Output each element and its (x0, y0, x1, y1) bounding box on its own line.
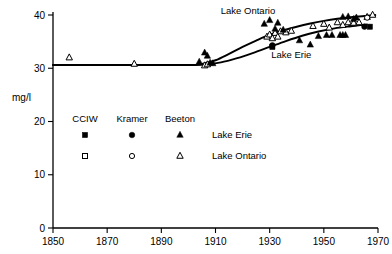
legend-marker (129, 153, 134, 158)
data-point-marker (315, 33, 321, 39)
data-point-marker (261, 20, 267, 26)
trend-line (53, 25, 364, 66)
legend-marker (177, 131, 183, 137)
legend-row-label: Lake Ontario (212, 150, 266, 161)
x-tick-label: 1910 (204, 236, 227, 247)
x-tick-label: 1970 (367, 236, 390, 247)
data-point-marker (275, 19, 281, 25)
y-tick-label: 40 (34, 10, 46, 21)
chart-container: 0102030401850187018901910193019501970 mg… (0, 0, 392, 254)
x-tick-label: 1890 (150, 236, 173, 247)
axes (53, 12, 378, 228)
y-tick-label: 30 (34, 63, 46, 74)
x-tick-label: 1850 (42, 236, 65, 247)
data-point-marker (196, 58, 202, 64)
legend-column-header: Kramer (116, 113, 147, 124)
data-point-marker (266, 17, 272, 23)
data-point-marker (131, 60, 137, 66)
data-point-marker (326, 24, 332, 30)
x-tick-label: 1950 (313, 236, 336, 247)
legend-column-header: Beeton (165, 113, 195, 124)
trend-line (53, 15, 375, 65)
legend-marker (129, 132, 135, 138)
chart-legend: CCIWKramerBeetonLake ErieLake Ontario (72, 113, 266, 161)
x-tick-label: 1930 (259, 236, 282, 247)
axis-ticks (48, 15, 378, 233)
chart-plot: 0102030401850187018901910193019501970 mg… (0, 0, 392, 254)
legend-marker (177, 152, 183, 158)
x-tick-label: 1870 (96, 236, 119, 247)
trend-lines (53, 15, 375, 65)
data-point-marker (272, 25, 278, 31)
data-point-marker (329, 32, 335, 38)
data-point-marker (270, 43, 276, 49)
legend-column-header: CCIW (72, 113, 97, 124)
data-point-marker (66, 54, 72, 60)
data-point-marker (362, 24, 368, 30)
y-tick-label: 10 (34, 169, 46, 180)
data-point-marker (365, 15, 370, 20)
data-point-marker (345, 13, 351, 19)
y-axis-title: mg/l (12, 92, 31, 103)
data-point-marker (367, 24, 372, 29)
legend-marker (83, 154, 88, 159)
legend-marker (82, 132, 87, 137)
legend-row-label: Lake Erie (212, 129, 252, 140)
series-label: Lake Ontario (221, 5, 275, 16)
data-point-marker (307, 41, 313, 47)
series-label: Lake Erie (271, 49, 311, 60)
y-tick-label: 20 (34, 116, 46, 127)
data-point-marker (323, 32, 329, 38)
y-tick-label: 0 (39, 223, 45, 234)
